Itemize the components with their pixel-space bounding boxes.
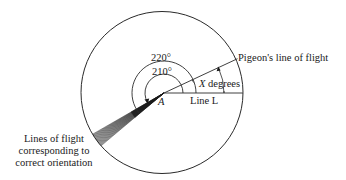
fan-caption-line-3: correct orientation xyxy=(12,157,96,169)
degrees-text: degrees xyxy=(205,78,240,89)
line-l-label: Line L xyxy=(190,96,218,107)
boundary-circle xyxy=(81,12,243,174)
x-degrees-label: X degrees xyxy=(199,79,240,90)
angle-220-label: 220° xyxy=(151,53,171,64)
pigeon-line-label: Pigeon's line of flight xyxy=(238,53,328,64)
fan-caption-line-2: corresponding to xyxy=(12,145,96,157)
fan-caption-line-1: Lines of flight xyxy=(12,133,96,145)
line-l-text: Line L xyxy=(190,95,218,106)
correct-orientation-fan xyxy=(93,93,164,146)
fan-caption: Lines of flight corresponding to correct… xyxy=(12,133,96,169)
point-a-label: A xyxy=(158,97,164,108)
angle-210-label: 210° xyxy=(152,67,172,78)
